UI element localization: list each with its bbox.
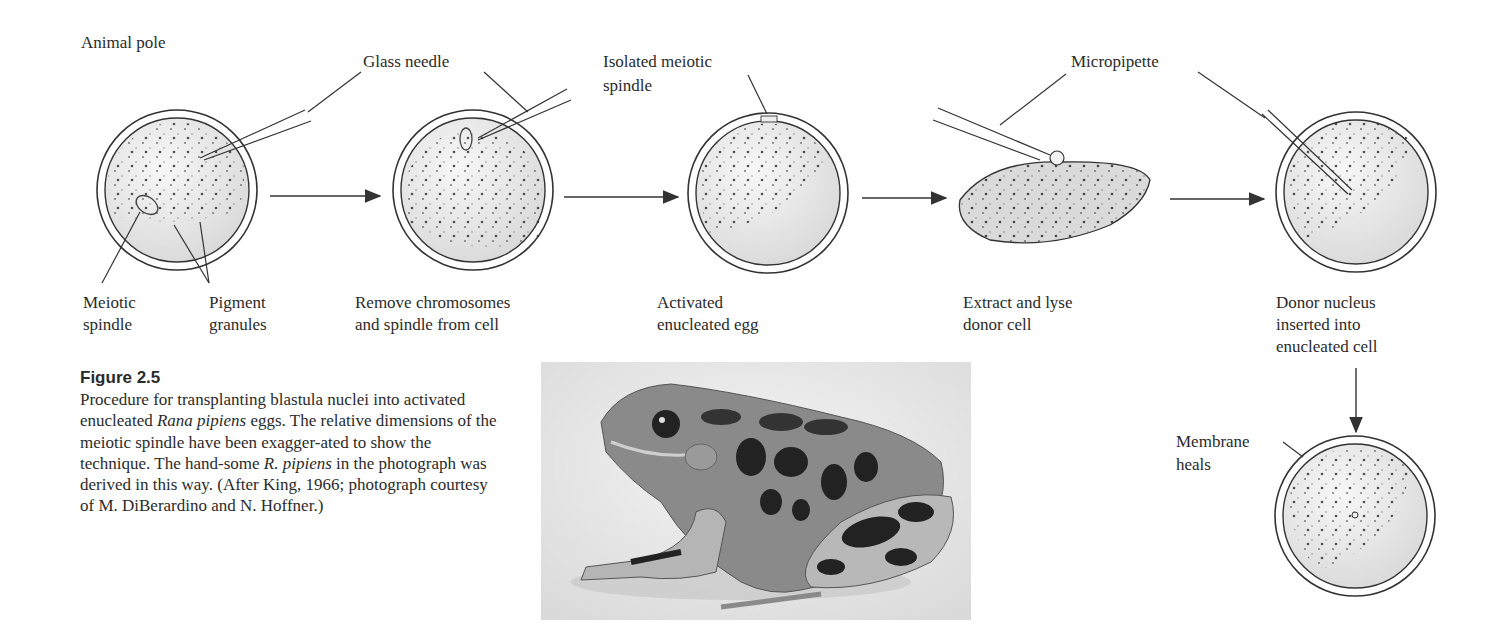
egg-2-spindle-removal <box>393 89 571 270</box>
label-pigment-line1: Pigment <box>209 293 266 313</box>
label-membrane-line2: heals <box>1176 455 1211 475</box>
label-isolated-spindle-line1: Isolated meiotic <box>603 52 712 72</box>
egg-4-donor-nucleus-inserted <box>1262 110 1436 272</box>
figure-caption: Procedure for transplanting blastula nuc… <box>80 389 500 517</box>
label-meiotic-line1: Meiotic <box>83 293 136 313</box>
step-1-line2: and spindle from cell <box>355 315 499 335</box>
label-pigment-line2: granules <box>209 315 267 335</box>
step-4-line1: Donor nucleus <box>1276 293 1376 313</box>
egg-5-membrane-heals <box>1275 436 1435 596</box>
step-1-line1: Remove chromosomes <box>355 293 510 313</box>
label-micropipette: Micropipette <box>1071 52 1159 72</box>
label-meiotic-line2: spindle <box>83 315 132 335</box>
step-2-line2: enucleated egg <box>657 315 758 335</box>
label-membrane-line1: Membrane <box>1176 432 1250 452</box>
step-4-line2: inserted into <box>1276 315 1361 335</box>
egg-3-activated-enucleated <box>688 113 848 273</box>
frog-icon <box>541 362 971 620</box>
donor-cell-cluster <box>933 108 1150 243</box>
label-glass-needle: Glass needle <box>363 52 449 72</box>
frog-photograph <box>541 362 971 620</box>
step-3-line2: donor cell <box>963 315 1031 335</box>
step-4-line3: enucleated cell <box>1276 337 1377 357</box>
caption-species-name: Rana pipiens <box>157 411 246 430</box>
step-3-line1: Extract and lyse <box>963 293 1073 313</box>
figure-number: Figure 2.5 <box>80 368 160 388</box>
label-isolated-spindle-line2: spindle <box>603 76 652 96</box>
caption-species-abbrev: R. pipiens <box>264 454 332 473</box>
step-2-line1: Activated <box>657 293 723 313</box>
label-animal-pole: Animal pole <box>81 33 166 53</box>
